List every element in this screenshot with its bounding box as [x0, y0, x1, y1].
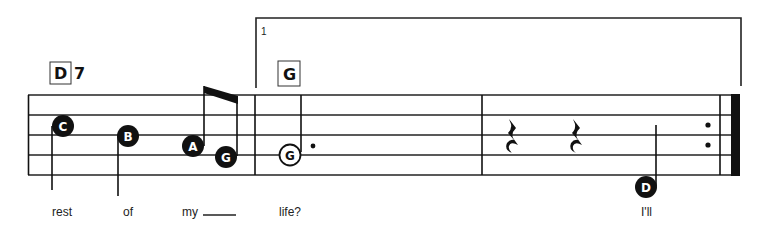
note-letter: G	[221, 151, 231, 165]
note-c: C	[52, 115, 74, 190]
chord-quality: 7	[74, 64, 85, 83]
barline-thick-repeat	[731, 94, 740, 176]
note-letter: A	[188, 140, 198, 154]
chord-symbol-d7: D 7	[50, 62, 85, 84]
chord-symbol-g: G	[278, 61, 300, 86]
note-b: B	[117, 125, 139, 196]
lyric-word: of	[123, 205, 134, 219]
note-letter: D	[641, 181, 651, 195]
lyric-word: rest	[52, 205, 73, 219]
chord-root: G	[283, 65, 296, 84]
note-a: A	[182, 135, 204, 157]
note-g: G	[215, 146, 237, 168]
note-letter: G	[285, 149, 295, 163]
sheet-music: 1 D 7 G C B A G G	[0, 0, 767, 230]
first-ending-bracket	[256, 18, 741, 88]
note-letter: C	[59, 120, 68, 134]
repeat-dot	[705, 142, 710, 147]
quarter-rest	[570, 119, 582, 153]
repeat-dot	[705, 122, 710, 127]
note-d: D	[635, 125, 657, 198]
chord-root: D	[54, 64, 67, 83]
lyric-word: life?	[279, 205, 301, 219]
lyric-word: my	[182, 205, 198, 219]
ending-number: 1	[261, 26, 267, 37]
lyric-word: I'll	[641, 205, 652, 219]
augmentation-dot	[311, 144, 316, 149]
quarter-rest	[506, 119, 518, 153]
note-letter: B	[123, 130, 132, 144]
